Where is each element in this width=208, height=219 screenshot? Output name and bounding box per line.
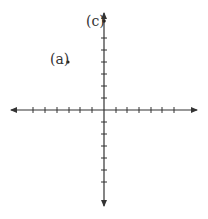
point-c-label: (c) — [86, 13, 105, 29]
coordinate-plane: (a) (c) — [0, 0, 208, 219]
point-a-label: (a) — [50, 51, 69, 67]
